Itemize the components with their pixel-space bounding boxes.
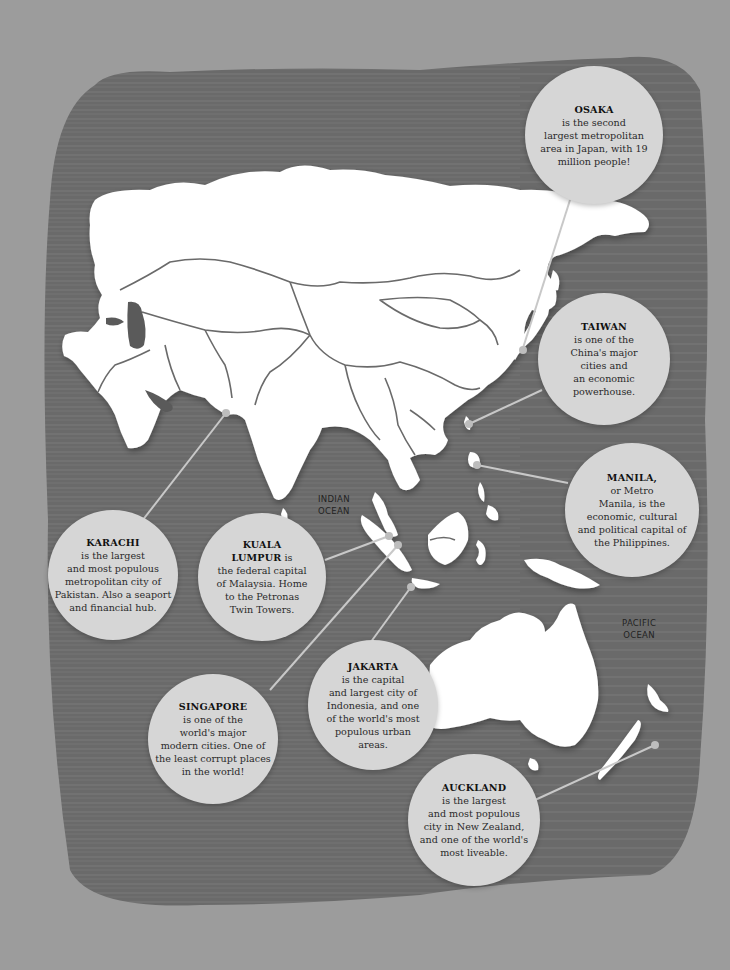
- callout-line: and one of the world's: [420, 833, 528, 846]
- asia-map-infographic: INDIAN OCEAN PACIFIC OCEAN OSAKA is the …: [0, 0, 730, 970]
- callout-line: is the largest: [420, 794, 528, 807]
- callout-line: the least corrupt places: [155, 752, 271, 765]
- callout-line: is the second: [540, 116, 647, 129]
- callout-line: most liveable.: [420, 846, 528, 859]
- callout-title: SINGAPORE: [155, 700, 271, 713]
- callout-line: or Metro: [578, 484, 687, 497]
- callout-line: modern cities. One of: [155, 739, 271, 752]
- callout-line: and largest city of: [326, 686, 419, 699]
- callout-line: to the Petronas: [217, 590, 308, 603]
- callout-line: city in New Zealand,: [420, 820, 528, 833]
- callout-title: KARACHI: [55, 536, 172, 549]
- ocean-label-line: OCEAN: [622, 629, 656, 641]
- callout-line: is the capital: [326, 673, 419, 686]
- callout-line: economic, cultural: [578, 510, 687, 523]
- indian-ocean-label: INDIAN OCEAN: [318, 493, 350, 517]
- callout-title: KUALA: [217, 538, 308, 551]
- callout-line: of Malaysia. Home: [217, 577, 308, 590]
- callout-manila: MANILA, or Metro Manila, is the economic…: [565, 443, 699, 577]
- callout-line: areas.: [326, 738, 419, 751]
- callout-line: Twin Towers.: [217, 603, 308, 616]
- callout-line: and most populous: [55, 562, 172, 575]
- callout-line: is: [281, 552, 292, 563]
- callout-line: populous urban: [326, 725, 419, 738]
- callout-line: Indonesia, and one: [326, 699, 419, 712]
- callout-line: largest metropolitan: [540, 129, 647, 142]
- callout-line: metropolitan city of: [55, 575, 172, 588]
- callout-taiwan: TAIWAN is one of the China's major citie…: [538, 293, 670, 425]
- callout-line: in the world!: [155, 765, 271, 778]
- callout-singapore: SINGAPORE is one of the world's major mo…: [148, 674, 278, 804]
- callout-line: Pakistan. Also a seaport: [55, 588, 172, 601]
- callout-line: and political capital of: [578, 523, 687, 536]
- callout-kuala-lumpur: KUALA LUMPUR is the federal capital of M…: [198, 513, 326, 641]
- callout-line: an economic: [570, 372, 637, 385]
- callout-line: China's major: [570, 346, 637, 359]
- callout-osaka: OSAKA is the second largest metropolitan…: [525, 66, 663, 204]
- callout-line: is one of the: [155, 713, 271, 726]
- pacific-ocean-label: PACIFIC OCEAN: [622, 617, 656, 641]
- callout-line: Manila, is the: [578, 497, 687, 510]
- callout-line: world's major: [155, 726, 271, 739]
- callout-title: TAIWAN: [570, 320, 637, 333]
- callout-line: powerhouse.: [570, 385, 637, 398]
- callout-jakarta: JAKARTA is the capital and largest city …: [308, 640, 438, 770]
- callout-title: OSAKA: [540, 103, 647, 116]
- callout-line: is the largest: [55, 549, 172, 562]
- callout-title: LUMPUR: [231, 552, 281, 563]
- callout-line: and financial hub.: [55, 601, 172, 614]
- callout-line: the Philippines.: [578, 536, 687, 549]
- callout-title: JAKARTA: [326, 660, 419, 673]
- callout-title: MANILA,: [578, 471, 687, 484]
- callout-karachi: KARACHI is the largest and most populous…: [48, 510, 178, 640]
- callout-line: cities and: [570, 359, 637, 372]
- callout-line: and most populous: [420, 807, 528, 820]
- callout-line: is one of the: [570, 333, 637, 346]
- ocean-label-line: PACIFIC: [622, 617, 656, 629]
- ocean-label-line: OCEAN: [318, 505, 350, 517]
- callout-title: AUCKLAND: [420, 781, 528, 794]
- callout-line: the federal capital: [217, 564, 308, 577]
- callout-auckland: AUCKLAND is the largest and most populou…: [408, 754, 540, 886]
- callout-line: million people!: [540, 155, 647, 168]
- callout-line: of the world's most: [326, 712, 419, 725]
- callout-line: area in Japan, with 19: [540, 142, 647, 155]
- ocean-label-line: INDIAN: [318, 493, 350, 505]
